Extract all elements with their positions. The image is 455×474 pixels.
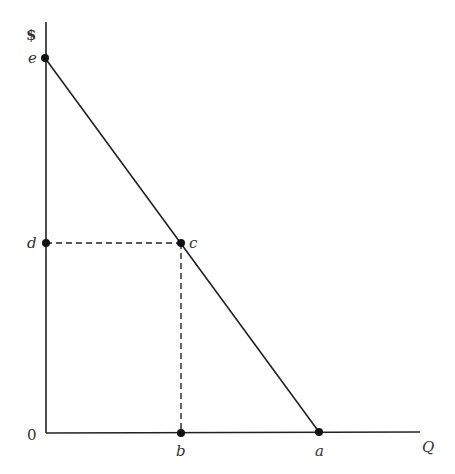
label-c: c (189, 234, 198, 252)
label-d: d (27, 234, 37, 252)
point-b (177, 429, 185, 437)
x-axis (46, 432, 420, 433)
point-d (42, 239, 50, 247)
point-c (177, 239, 185, 247)
label-e: e (28, 49, 37, 67)
label-b: b (176, 442, 186, 460)
label-a: a (315, 442, 324, 460)
point-a (315, 428, 323, 436)
demand-diagram: $ e d c 0 b a Q (0, 0, 455, 474)
y-axis-label: $ (26, 26, 36, 44)
x-axis-label: Q (422, 438, 434, 456)
point-e (41, 54, 49, 62)
origin-label: 0 (27, 426, 37, 444)
